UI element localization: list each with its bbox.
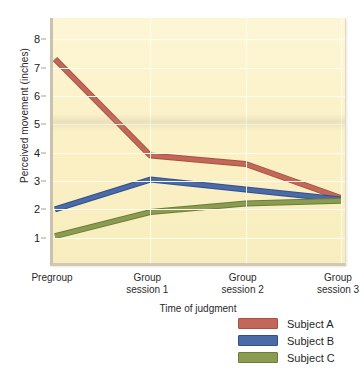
y-tick-label-2: 2 [34,203,40,215]
x-tick-label-line: Group [104,272,190,284]
y-tick-mark-1 [41,237,46,239]
legend: Subject ASubject BSubject C [238,315,335,366]
x-tick-label-2: Groupsession 2 [200,272,286,296]
x-tick-label-line: Pregroup [9,272,95,284]
gridline-y-1 [53,238,345,239]
y-tick-label-8: 8 [34,33,40,45]
y-tick-label-4: 4 [34,147,40,159]
y-tick-mark-4 [41,152,46,154]
legend-swatch-icon [238,318,278,329]
x-tick-label-0: Pregroup [9,272,95,284]
x-tick-label-3: Groupsession 3 [295,272,364,296]
y-tick-label-5: 5 [34,118,40,130]
legend-item-subject-b[interactable]: Subject B [238,332,335,349]
y-tick-mark-2 [41,208,46,210]
gridline-y-2 [53,209,345,210]
y-tick-label-3: 3 [34,175,40,187]
y-tick-label-7: 7 [34,62,40,74]
plot-area [50,18,346,266]
legend-label: Subject B [287,335,334,347]
gridline-y-3 [53,181,345,182]
legend-label: Subject C [287,352,335,364]
line-chart-figure: Perceived movement (inches) 12345678 Pre… [0,0,364,376]
gridline-x-2 [246,18,247,263]
y-tick-label-1: 1 [34,232,40,244]
series-line-subject-a [55,59,341,198]
x-tick-label-line: session 3 [295,284,364,296]
gridline-y-8 [53,39,345,40]
gridline-y-5 [53,124,345,125]
series-line-subject-c [55,201,341,236]
y-tick-mark-3 [41,180,46,182]
y-tick-mark-8 [41,38,46,40]
y-tick-mark-7 [41,67,46,69]
x-tick-label-line: session 2 [200,284,286,296]
x-tick-label-line: session 1 [104,284,190,296]
gridline-y-6 [53,96,345,97]
x-axis-ticks: PregroupGroupsession 1Groupsession 2Grou… [50,272,346,306]
y-axis-ticks: 12345678 [0,18,46,266]
x-axis-title: Time of judgment [50,303,346,314]
series-lines [53,18,346,266]
x-tick-label-line: Group [200,272,286,284]
gridline-y-4 [53,153,345,154]
legend-item-subject-c[interactable]: Subject C [238,349,335,366]
x-tick-label-line: Group [295,272,364,284]
x-tick-label-1: Groupsession 1 [104,272,190,296]
series-line-edge-subject-a [55,59,341,198]
gridline-x-1 [150,18,151,263]
y-tick-mark-5 [41,123,46,125]
legend-item-subject-a[interactable]: Subject A [238,315,335,332]
y-tick-mark-6 [41,95,46,97]
legend-swatch-icon [238,352,278,363]
gridline-x-3 [341,18,342,263]
y-tick-label-6: 6 [34,90,40,102]
legend-label: Subject A [287,318,333,330]
legend-swatch-icon [238,335,278,346]
gridline-y-7 [53,68,345,69]
